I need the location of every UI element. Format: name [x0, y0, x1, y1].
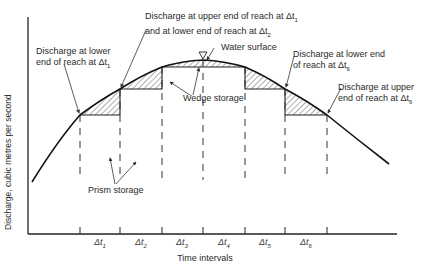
- subscript: 2: [268, 32, 271, 38]
- label-line: Discharge at lower: [36, 46, 111, 57]
- tick-label-dt5: Δt5: [259, 237, 271, 249]
- label-line: Discharge at upper: [338, 82, 414, 93]
- label-line: Discharge at lower end: [293, 49, 385, 60]
- subscript: 6: [347, 66, 350, 72]
- label-water-surface: Water surface: [221, 42, 277, 53]
- label-line: end of reach at Δt1: [36, 57, 111, 72]
- label-line: and at lower end of reach at Δt2: [145, 26, 298, 41]
- interval-dividers: [80, 60, 327, 180]
- x-ticks: [80, 227, 327, 234]
- label-text: of reach at Δt: [293, 60, 347, 70]
- tick-label-dt6: Δt6: [300, 237, 312, 249]
- water-surface-icon: [199, 52, 207, 59]
- label-line: Discharge at upper end of reach at Δt1: [145, 11, 298, 26]
- label-upper-dt1-lower-dt2: Discharge at upper end of reach at Δt1 a…: [145, 11, 298, 41]
- tick-label-dt1: Δt1: [94, 237, 106, 249]
- label-text: Discharge at upper end of reach at Δt: [145, 11, 295, 21]
- subscript: 6: [409, 99, 412, 105]
- label-lower-dt6: Discharge at lower end of reach at Δt6: [293, 49, 385, 75]
- tick-label-dt2: Δt2: [135, 237, 147, 249]
- tick-label-dt3: Δt3: [176, 237, 188, 249]
- label-upper-dt6: Discharge at upper end of reach at Δt6: [338, 82, 414, 108]
- y-axis-label: Discharge, cubic metres per second: [3, 94, 13, 230]
- label-text: end of reach at Δt: [36, 57, 107, 67]
- label-line: end of reach at Δt6: [338, 93, 414, 108]
- x-axis-label: Time intervals: [177, 253, 233, 263]
- subscript: 1: [107, 63, 110, 69]
- label-text: and at lower end of reach at Δt: [145, 26, 268, 36]
- label-prism-storage: Prism storage: [88, 185, 144, 196]
- label-text: end of reach at Δt: [338, 93, 409, 103]
- label-wedge-storage: Wedge storage: [183, 93, 244, 104]
- discharge-curve: [32, 60, 389, 182]
- tick-label-dt4: Δt4: [218, 237, 230, 249]
- subscript: 1: [295, 17, 298, 23]
- label-lower-dt1: Discharge at lower end of reach at Δt1: [36, 46, 111, 72]
- label-line: of reach at Δt6: [293, 60, 385, 75]
